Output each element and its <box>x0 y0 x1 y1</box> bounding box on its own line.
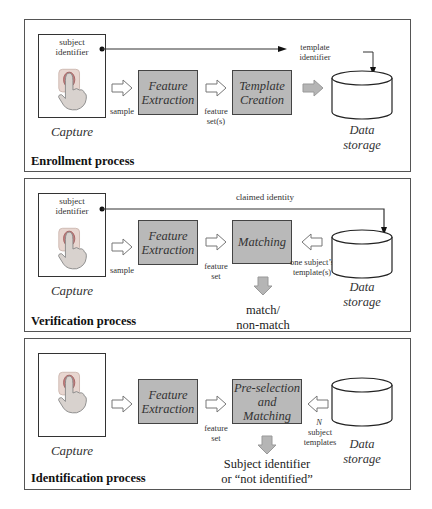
data-storage-label: Data storage <box>332 280 392 310</box>
hollow-left-arrow-icon <box>301 233 323 251</box>
hollow-arrow-icon <box>205 79 227 97</box>
feature-set-label: feature set(s) <box>201 106 231 126</box>
enrollment-panel: subject identifier Capture sample Featur… <box>24 19 411 172</box>
gray-down-arrow-icon <box>253 276 273 296</box>
preselection-matching-box: Pre-selection and Matching <box>232 379 302 424</box>
capture-label: Capture <box>38 443 106 459</box>
templates-label: one subject’s template(s) <box>289 257 335 277</box>
hollow-arrow-icon <box>111 238 133 256</box>
database-cylinder-icon <box>331 377 393 427</box>
hollow-arrow-icon <box>205 395 227 413</box>
claimed-identity-label: claimed identity <box>225 192 305 202</box>
hollow-arrow-icon <box>111 395 133 413</box>
hollow-arrow-icon <box>111 79 133 97</box>
template-identifier-label: template identifier <box>295 42 335 62</box>
database-cylinder-icon <box>331 229 393 279</box>
hollow-arrow-icon <box>205 233 227 251</box>
matching-box: Matching <box>232 220 292 264</box>
match-result-label: match/ non-match <box>233 303 293 333</box>
database-cylinder-icon <box>331 70 393 120</box>
gray-arrow-icon <box>302 79 324 97</box>
gray-down-arrow-icon <box>257 435 277 455</box>
verification-title: Verification process <box>31 314 136 329</box>
data-storage-label: Data storage <box>332 437 392 467</box>
sample-label: sample <box>107 106 137 116</box>
feature-extraction-box: Feature Extraction <box>138 379 198 424</box>
identification-result-line2: or “not identified” <box>217 472 317 487</box>
template-creation-box: Template Creation <box>232 70 292 115</box>
sample-label: sample <box>107 265 137 275</box>
identification-result-line1: Subject identifier <box>217 457 317 472</box>
identification-title: Identification process <box>31 471 146 486</box>
identification-panel: Capture Feature Extraction feature set P… <box>24 338 411 490</box>
feature-set-label: feature set <box>201 261 231 281</box>
data-storage-label: Data storage <box>332 123 392 153</box>
hollow-left-arrow-icon <box>307 395 329 413</box>
feature-set-label: feature set <box>201 423 231 443</box>
verification-panel: subject identifier Capture claimed ident… <box>24 178 411 332</box>
capture-box <box>38 353 106 437</box>
feature-extraction-box: Feature Extraction <box>138 70 198 115</box>
templates-n-label: N <box>309 417 329 427</box>
enrollment-title: Enrollment process <box>31 154 134 169</box>
fingerprint-touch-icon <box>56 372 88 414</box>
feature-extraction-box: Feature Extraction <box>138 220 198 265</box>
